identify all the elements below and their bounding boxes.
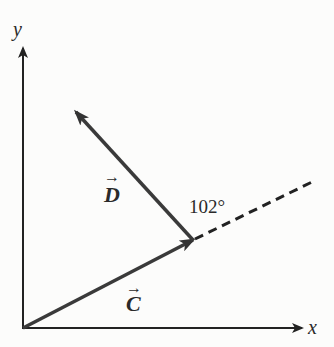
vector-diagram: y x → D → C 102°	[0, 0, 334, 347]
y-axis-label: y	[11, 18, 22, 41]
vector-c-arrow	[23, 240, 193, 328]
vector-d-label: D	[103, 182, 120, 207]
vector-d-arrow	[76, 112, 193, 240]
angle-label: 102°	[189, 196, 225, 217]
vector-c-label: C	[126, 291, 141, 316]
x-axis-label: x	[307, 316, 317, 338]
